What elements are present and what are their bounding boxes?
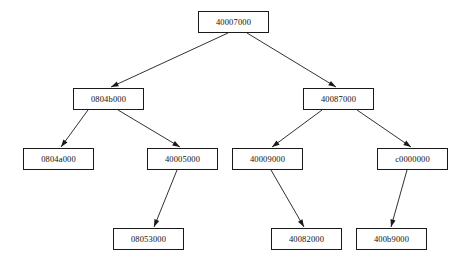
tree-edge-n1-to-n4 [118,110,180,147]
edge-line [61,110,88,147]
edge-arrowhead-icon [172,141,180,147]
edge-line [118,110,180,147]
tree-node-40009000: 40009000 [232,148,303,170]
tree-node-40007000: 40007000 [198,11,269,33]
tree-edge-n2-to-n5 [272,110,322,147]
edge-arrowhead-icon [298,219,304,227]
tree-edge-n1-to-n3 [61,110,88,147]
edge-arrowhead-icon [154,219,159,227]
edge-line [111,33,228,87]
tree-edge-n5-to-n8 [271,170,304,227]
tree-node-0804b000: 0804b000 [73,88,144,110]
tree-edge-n4-to-n7 [154,170,177,227]
tree-node-label: 400b9000 [374,235,409,244]
tree-node-08053000: 08053000 [113,228,184,250]
edge-line [391,170,407,227]
tree-node-c0000000: c0000000 [377,148,448,170]
tree-node-0804a000: 0804a000 [23,148,94,170]
edge-layer [0,0,469,265]
tree-node-400b9000: 400b9000 [356,228,427,250]
tree-node-label: 40007000 [216,18,251,27]
tree-node-40087000: 40087000 [303,88,374,110]
edge-arrowhead-icon [61,139,68,147]
edge-arrowhead-icon [391,219,396,227]
tree-node-label: 40005000 [165,155,200,164]
tree-edge-n0-to-n2 [247,33,336,87]
tree-node-label: 08053000 [131,235,166,244]
edge-arrowhead-icon [111,81,119,87]
edge-line [357,110,411,147]
edge-arrowhead-icon [328,81,336,87]
tree-edge-n0-to-n1 [111,33,228,87]
edge-line [247,33,336,87]
tree-node-40082000: 40082000 [271,228,342,250]
edge-arrowhead-icon [403,141,411,147]
tree-node-label: c0000000 [395,155,430,164]
edge-line [271,170,304,227]
tree-edge-n2-to-n6 [357,110,411,147]
tree-node-40005000: 40005000 [147,148,218,170]
tree-node-label: 40009000 [250,155,285,164]
edge-arrowhead-icon [272,140,280,147]
tree-node-label: 40082000 [289,235,324,244]
tree-node-label: 0804a000 [41,155,76,164]
tree-edge-n6-to-n9 [391,170,407,227]
address-tree-diagram: 400070000804b000400870000804a00040005000… [0,0,469,265]
tree-node-label: 0804b000 [91,95,126,104]
edge-line [272,110,322,147]
edge-line [154,170,177,227]
tree-node-label: 40087000 [321,95,356,104]
